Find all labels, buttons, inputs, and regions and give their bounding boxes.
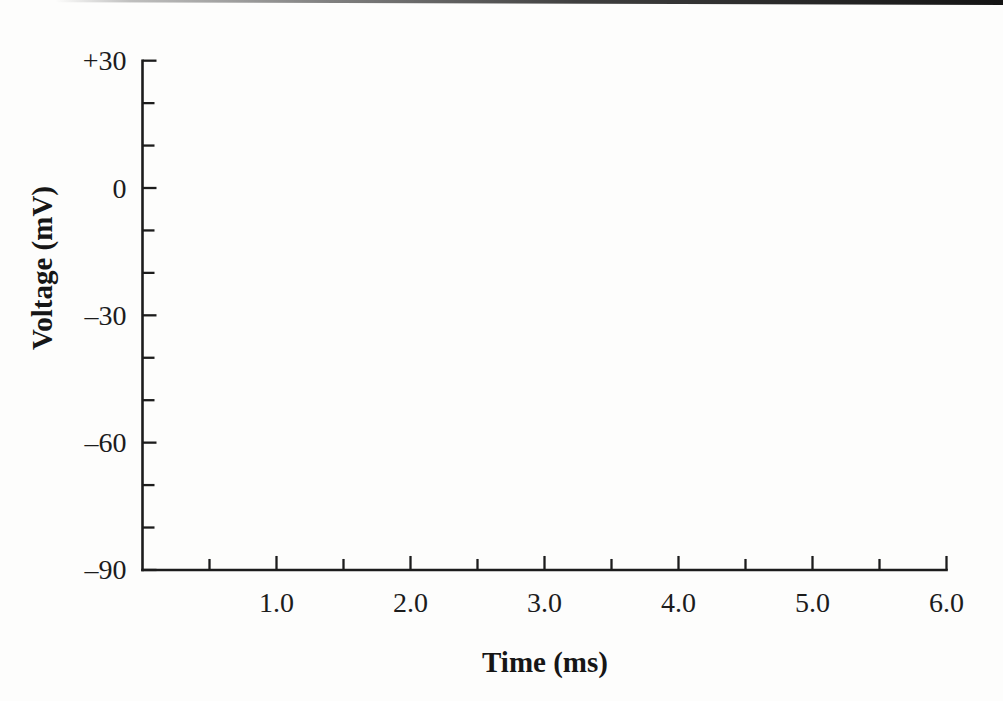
- x-tick-label: 5.0: [795, 587, 830, 618]
- x-tick-label: 1.0: [259, 587, 294, 618]
- y-tick-label: 0: [113, 173, 127, 204]
- figure: +300–30–60–901.02.03.04.05.06.0 Time (ms…: [0, 0, 1003, 701]
- x-tick-label: 6.0: [929, 587, 964, 618]
- chart-axes: +300–30–60–901.02.03.04.05.06.0 Time (ms…: [0, 0, 1003, 701]
- y-axis-title: Voltage (mV): [26, 186, 59, 350]
- axes-layer: +300–30–60–901.02.03.04.05.06.0: [83, 45, 964, 618]
- x-tick-label: 2.0: [393, 587, 428, 618]
- x-tick-label: 4.0: [661, 587, 696, 618]
- x-axis-title: Time (ms): [482, 646, 608, 679]
- x-tick-label: 3.0: [527, 587, 562, 618]
- y-tick-label: –60: [84, 427, 127, 458]
- y-tick-label: –30: [84, 300, 127, 331]
- y-tick-label: +30: [83, 45, 127, 76]
- y-tick-label: –90: [84, 554, 127, 585]
